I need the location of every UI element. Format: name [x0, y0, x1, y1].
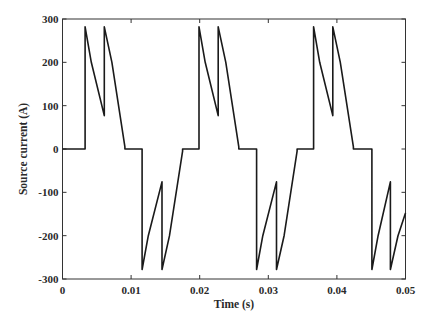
- y-tick-label: -100: [38, 186, 59, 198]
- y-tick-label: 300: [42, 13, 59, 25]
- y-tick-label: 0: [53, 143, 59, 155]
- y-tick-label: -200: [38, 230, 59, 242]
- chart: -300-200-1000100200300 00.010.020.030.04…: [0, 0, 436, 321]
- y-tick-label: -300: [38, 273, 59, 285]
- y-axis-label: Source current (A): [17, 103, 30, 195]
- y-axis-ticks: -300-200-1000100200300: [38, 13, 405, 285]
- y-tick-label: 100: [42, 100, 59, 112]
- source-current-line: [63, 27, 406, 270]
- x-tick-label: 0.01: [121, 284, 140, 296]
- y-tick-label: 200: [42, 56, 59, 68]
- x-tick-label: 0: [60, 284, 66, 296]
- x-tick-label: 0.05: [396, 284, 416, 296]
- x-tick-label: 0.02: [190, 284, 210, 296]
- x-axis-label: Time (s): [214, 298, 255, 311]
- x-tick-label: 0.03: [259, 284, 279, 296]
- x-tick-label: 0.04: [327, 284, 347, 296]
- x-axis-ticks: 00.010.020.030.040.05: [60, 19, 416, 296]
